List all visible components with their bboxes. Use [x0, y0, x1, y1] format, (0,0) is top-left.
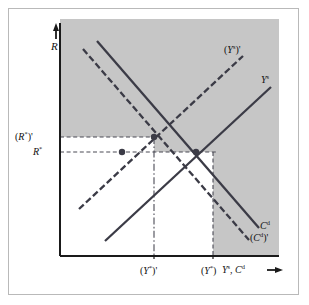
figure-frame: R Ys, Cd (R*)' R* (Y*)' (Y*) (Ys)' Ys — [8, 8, 299, 295]
figure-root: R Ys, Cd (R*)' R* (Y*)' (Y*) (Ys)' Ys — [0, 0, 309, 305]
y-axis-label: R — [51, 41, 58, 52]
marker-equilibrium-new — [151, 134, 157, 140]
shaded-region-group — [60, 19, 279, 256]
y-tick-label-r-star: R* — [33, 146, 42, 157]
x-axis-arrow-icon — [275, 267, 283, 273]
curve-label-ys-prime: (Ys)' — [224, 44, 241, 55]
y-tick-label-r-star-prime: (R*)' — [15, 131, 33, 142]
curve-label-cd-prime: (Cd)' — [250, 232, 268, 243]
marker-equilibrium-old — [193, 149, 199, 155]
x-axis-label: Ys, Cd — [222, 264, 245, 275]
x-tick-label-y-star: (Y*) — [201, 265, 216, 276]
diagram-canvas — [9, 9, 300, 296]
curve-label-cd: Cd — [260, 220, 270, 231]
marker-point-mid-left — [119, 149, 125, 155]
x-tick-label-y-star-prime: (Y*)' — [140, 265, 157, 276]
y-axis-arrow-icon — [53, 23, 59, 31]
curve-label-ys: Ys — [261, 74, 269, 85]
